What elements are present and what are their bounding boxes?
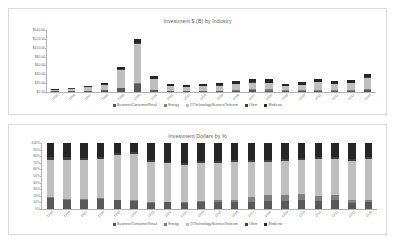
stacked-bar <box>331 143 339 209</box>
legend-swatch-icon <box>113 223 116 226</box>
bar-column <box>129 143 140 209</box>
x-axis-tick-label: 2012 <box>331 210 339 218</box>
bar-segment <box>231 143 239 160</box>
bar-segment <box>214 143 222 161</box>
x-axis-tick-label: 2004 <box>199 93 207 101</box>
x-axis-tick-label: 2007 <box>248 93 256 101</box>
bar-segment <box>281 201 289 209</box>
bar-segment <box>63 143 71 157</box>
legend-item[interactable]: Other <box>245 222 258 226</box>
bar-segment <box>114 143 122 153</box>
x-axis-tick-label: 1997 <box>80 210 88 218</box>
y-axis-tick-label: $40.00 <box>35 72 45 76</box>
x-axis-tick-label: 2011 <box>314 210 322 218</box>
x-axis-tick-label: 2002 <box>164 210 172 218</box>
y-axis-tick-label: 50% <box>33 174 40 178</box>
bar-column <box>78 143 89 209</box>
legend-item-label: Medicine <box>269 222 283 226</box>
stacked-bar <box>181 143 189 209</box>
x-axis-tick: 2006 <box>229 209 240 219</box>
bar-segment <box>134 44 142 83</box>
legend-item[interactable]: IT/Technology/Science/Telecom <box>186 103 238 107</box>
x-axis-tick-label: 2010 <box>298 210 306 218</box>
stacked-bar <box>348 143 356 209</box>
x-axis-tick-label: 2000 <box>133 93 141 101</box>
legend-item[interactable]: Energy <box>164 222 179 226</box>
stacked-bar <box>197 143 205 209</box>
x-axis-tick-label: 1999 <box>113 210 121 218</box>
x-axis-tick: 2014 <box>363 209 374 219</box>
x-axis-tick: 2003 <box>179 209 190 219</box>
legend-item[interactable]: Medicine <box>264 103 282 107</box>
bar-column <box>229 143 240 209</box>
stacked-bar <box>214 143 222 209</box>
x-axis-tick: 2000 <box>129 209 140 219</box>
bar-segment <box>80 143 88 158</box>
x-axis-tick: 2011 <box>313 209 324 219</box>
plot-area-top: $0.00$20.00$40.00$60.00$80.00$100.00$120… <box>46 30 376 93</box>
bar-column <box>196 143 207 209</box>
y-axis-tick-label: $80.00 <box>35 55 45 59</box>
legend-item[interactable]: Other <box>245 103 258 107</box>
chart-legend-top: Business/Consumer/RetailEnergyIT/Technol… <box>9 103 386 107</box>
bar-column <box>95 143 106 209</box>
bar-segment <box>249 83 257 90</box>
bar-column <box>179 143 190 209</box>
legend-item[interactable]: IT/Technology/Science/Telecom <box>186 222 238 226</box>
stacked-bar <box>364 73 372 92</box>
x-axis-tick: 1995 <box>50 92 60 102</box>
x-axis-top: 1995199619971998199920002001200220032004… <box>47 92 376 102</box>
stacked-bar <box>147 143 155 209</box>
bar-segment <box>348 143 356 159</box>
x-axis-tick-label: 2005 <box>214 210 222 218</box>
bar-segment <box>164 143 172 161</box>
stacked-bar <box>315 143 323 209</box>
stacked-bar <box>265 79 273 92</box>
y-axis-tick-label: $140.00 <box>33 28 45 32</box>
y-axis-tick-label: 90% <box>33 148 40 152</box>
stacked-bar <box>231 143 239 209</box>
stacked-bar <box>232 81 240 92</box>
bar-column <box>313 143 324 209</box>
x-axis-tick: 2004 <box>198 92 208 102</box>
legend-item[interactable]: Energy <box>164 103 179 107</box>
x-axis-tick-label: 2010 <box>298 93 306 101</box>
bar-column <box>149 30 159 92</box>
x-axis-tick-label: 2007 <box>247 210 255 218</box>
legend-item[interactable]: Medicine <box>264 222 282 226</box>
stacked-bar <box>117 67 125 92</box>
x-axis-tick-label: 2004 <box>197 210 205 218</box>
x-axis-tick-label: 2005 <box>215 93 223 101</box>
legend-swatch-icon <box>186 223 189 226</box>
x-axis-tick: 2003 <box>182 92 192 102</box>
x-axis-tick-label: 2014 <box>363 93 371 101</box>
x-axis-tick: 2009 <box>279 209 290 219</box>
legend-swatch-icon <box>164 104 167 107</box>
legend-item[interactable]: Business/Consumer/Retail <box>113 103 157 107</box>
bar-column <box>313 30 323 92</box>
x-axis-tick-label: 1998 <box>100 93 108 101</box>
bar-column <box>363 30 373 92</box>
bar-segment <box>298 200 306 209</box>
x-axis-tick: 2005 <box>215 92 225 102</box>
y-axis-tick-label: 80% <box>33 154 40 158</box>
bar-segment <box>264 143 272 160</box>
stacked-bar <box>130 143 138 209</box>
y-axis-tick-label: $0.00 <box>37 90 46 94</box>
bar-segment <box>147 162 155 203</box>
bar-column <box>346 30 356 92</box>
bar-segment <box>97 159 105 199</box>
bar-segment <box>63 160 71 200</box>
legend-item-label: IT/Technology/Science/Telecom <box>190 103 238 107</box>
chart-panel-investment-dollars-by-percent: Investment Dollars by % 0%10%20%30%40%50… <box>8 124 387 235</box>
legend-item-label: Business/Consumer/Retail <box>117 103 157 107</box>
bar-segment <box>281 161 289 195</box>
x-axis-tick-label: 2008 <box>265 93 273 101</box>
bar-segment <box>298 160 306 194</box>
bar-segment <box>365 202 373 209</box>
x-axis-tick: 2005 <box>212 209 223 219</box>
legend-item-label: Other <box>249 103 257 107</box>
stacked-bar <box>183 85 191 92</box>
legend-item[interactable]: Business/Consumer/Retail <box>113 222 157 226</box>
bar-column <box>50 30 60 92</box>
